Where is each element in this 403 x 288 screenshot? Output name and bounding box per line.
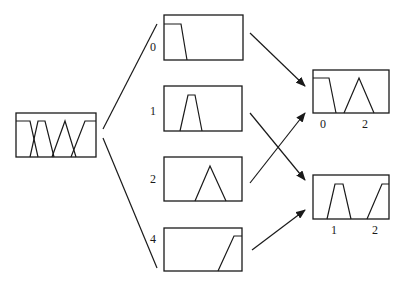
- membership-function-1: [30, 121, 54, 157]
- box-0: 0: [150, 15, 243, 60]
- arrow-box-0-to-out-top: [250, 33, 305, 86]
- box-label: 4: [150, 232, 156, 246]
- box-frame: [313, 70, 389, 113]
- output-partition-boxes: 0212: [313, 70, 389, 237]
- mapping-arrows: [250, 33, 305, 250]
- box-frame: [313, 175, 389, 219]
- fan-line-1: [103, 138, 157, 268]
- fuzzy-partition-diagram: 0124 0212: [0, 0, 403, 288]
- input-box: [16, 113, 96, 157]
- membership-function-0: [218, 236, 242, 271]
- axis-label: 1: [331, 223, 337, 237]
- box-label: 1: [150, 104, 156, 118]
- box-frame: [164, 15, 243, 60]
- fan-line-0: [103, 24, 157, 129]
- box-label: 0: [150, 40, 156, 54]
- component-boxes: 0124: [150, 15, 243, 271]
- out-top: 02: [313, 70, 389, 131]
- membership-function-0: [195, 166, 226, 201]
- membership-function-0: [164, 24, 187, 60]
- box-frame: [16, 113, 96, 157]
- membership-function-1: [367, 184, 389, 219]
- membership-function-0: [327, 184, 351, 219]
- axis-label: 2: [372, 223, 378, 237]
- box-frame: [164, 157, 242, 201]
- out-bottom: 12: [313, 175, 389, 237]
- box-4: 4: [150, 228, 242, 271]
- box-2: 2: [150, 157, 242, 201]
- input-partition-box: [16, 113, 96, 157]
- arrow-box-4-to-out-bottom: [252, 210, 305, 250]
- membership-function-0: [16, 121, 38, 157]
- membership-function-0: [313, 78, 336, 113]
- membership-function-0: [180, 95, 202, 131]
- diagram-canvas: 0124 0212: [0, 0, 403, 288]
- box-frame: [164, 86, 242, 131]
- fan-lines: [103, 24, 157, 268]
- membership-function-2: [52, 121, 76, 157]
- box-frame: [164, 228, 242, 271]
- axis-label: 2: [362, 117, 368, 131]
- axis-label: 0: [320, 117, 326, 131]
- membership-function-1: [344, 78, 374, 113]
- box-1: 1: [150, 86, 242, 131]
- box-label: 2: [150, 172, 156, 186]
